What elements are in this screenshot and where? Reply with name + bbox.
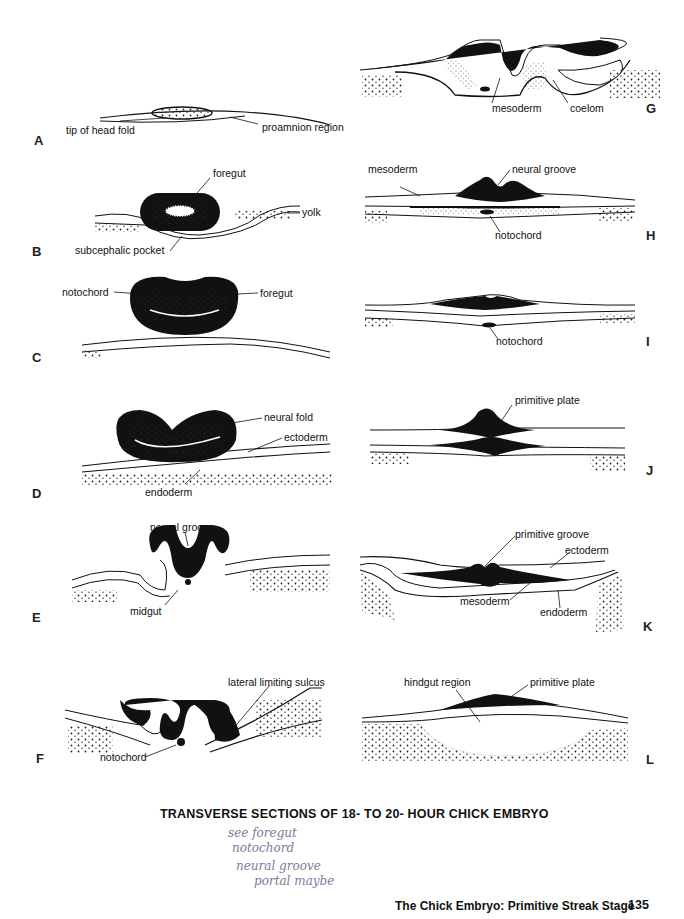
label-hindgut-region: hindgut region	[404, 676, 471, 688]
page-number: 135	[628, 898, 649, 912]
section-drawing-l	[0, 0, 684, 780]
running-footer-title: The Chick Embryo: Primitive Streak Stage	[395, 899, 634, 913]
figure-letter-l: L	[646, 752, 654, 767]
handwritten-note-2: notochord	[232, 841, 294, 855]
figure-caption: TRANSVERSE SECTIONS OF 18- TO 20- HOUR C…	[160, 807, 549, 821]
handwritten-note-3: neural groove	[236, 859, 321, 873]
handwritten-note-1: see foregut	[228, 826, 297, 840]
label-primitive-plate-l: primitive plate	[530, 676, 595, 688]
handwritten-note-4: portal maybe	[254, 874, 334, 888]
